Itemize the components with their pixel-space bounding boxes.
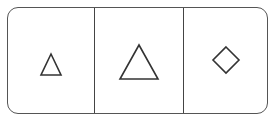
shape-segmented-control: Small triangle Large triangle Diamond: [7, 7, 268, 114]
triangle-small-icon: [36, 50, 66, 80]
triangle-large-icon: [117, 42, 161, 82]
segment-small-triangle[interactable]: Small triangle: [8, 8, 94, 113]
segment-diamond[interactable]: Diamond: [183, 8, 267, 113]
segment-large-triangle[interactable]: Large triangle: [94, 8, 183, 113]
diamond-icon: [210, 44, 242, 76]
